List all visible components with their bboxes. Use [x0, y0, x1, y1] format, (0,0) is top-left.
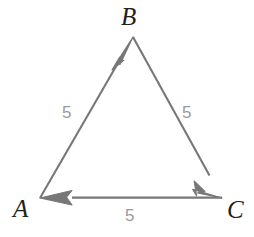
side-ab-line — [40, 51, 125, 199]
side-length-label-ab: 5 — [62, 104, 71, 121]
vertex-label-b: B — [121, 4, 136, 29]
triangle-diagram: A B C 5 5 5 — [0, 0, 254, 237]
side-ca-arrowhead-icon — [40, 191, 72, 206]
side-length-label-bc: 5 — [182, 104, 191, 121]
side-length-label-ca: 5 — [125, 207, 134, 224]
side-bc-arrowhead-icon — [193, 181, 222, 198]
side-bc-line — [133, 37, 210, 176]
side-ab-arrowhead-icon — [112, 37, 133, 70]
vertex-label-a: A — [13, 196, 28, 221]
vertex-label-c: C — [227, 197, 244, 222]
triangle-graphic — [0, 0, 254, 237]
